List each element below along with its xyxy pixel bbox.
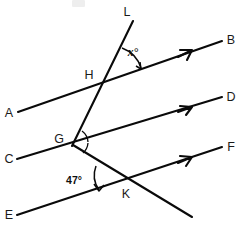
line-CD-direction-arrow-icon <box>178 106 192 115</box>
geometry-canvas: H G K A B C D E F L x° 47° <box>0 0 244 228</box>
endpoint-label-B: B <box>227 33 235 47</box>
geometry-diagram: H G K A B C D E F L x° 47° <box>0 0 244 228</box>
angle-label-47: 47° <box>66 174 82 186</box>
angle-arc-g-upper <box>82 131 88 142</box>
angle-label-x: x° <box>127 46 139 58</box>
point-label-K: K <box>122 187 131 201</box>
endpoint-label-A: A <box>5 106 14 120</box>
endpoint-label-F: F <box>227 140 235 154</box>
line-EF-direction-arrow-icon <box>178 156 192 166</box>
transversal-GK <box>73 145 192 217</box>
scan-artifact <box>72 0 85 7</box>
point-label-H: H <box>84 68 93 82</box>
endpoint-label-C: C <box>4 152 13 166</box>
endpoint-label-E: E <box>5 208 13 222</box>
line-AB-direction-arrow-icon <box>178 50 192 60</box>
endpoint-label-L: L <box>124 5 131 19</box>
point-label-G: G <box>54 132 64 146</box>
endpoint-label-D: D <box>226 90 235 104</box>
